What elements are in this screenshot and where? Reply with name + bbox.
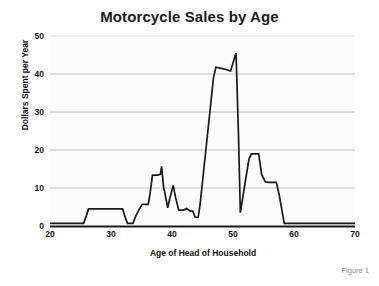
figure-caption: Figure 1 — [341, 266, 369, 275]
plot-background — [50, 36, 355, 226]
x-tick-label-60: 60 — [279, 229, 309, 239]
figure-container: Motorcycle Sales by Age 50 40 30 20 10 0… — [0, 0, 379, 286]
x-tick-label-30: 30 — [96, 229, 126, 239]
y-axis-title: Dollars Spent per Year — [20, 20, 30, 150]
y-tick-label-10: 10 — [18, 183, 44, 193]
x-tick-label-20: 20 — [35, 229, 65, 239]
x-tick-label-40: 40 — [157, 229, 187, 239]
chart-plot-area — [0, 0, 379, 286]
x-axis-title: Age of Head of Household — [48, 248, 358, 258]
x-tick-label-70: 70 — [340, 229, 370, 239]
x-tick-label-50: 50 — [218, 229, 248, 239]
